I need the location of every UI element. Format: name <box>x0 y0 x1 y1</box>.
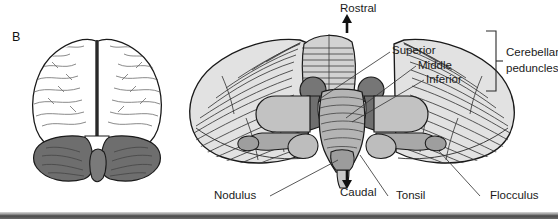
inset-cerebellum-left <box>34 136 94 181</box>
label-cerebellar-peduncles-line1: Cerebellar <box>506 46 558 59</box>
brain-inset-group <box>33 39 162 181</box>
label-superior-peduncle: Superior <box>392 44 435 57</box>
middle-peduncle-right <box>374 96 428 132</box>
leader-nodulus <box>270 160 338 196</box>
nodulus <box>331 150 354 170</box>
bottom-bar <box>0 212 558 219</box>
label-inferior-peduncle: Inferior <box>426 73 462 86</box>
panel-letter: B <box>12 30 20 44</box>
label-cerebellar-peduncles-line2: peduncles <box>506 62 558 75</box>
anatomical-illustration <box>0 0 558 219</box>
label-flocculus: Flocculus <box>490 189 539 202</box>
caudal-label: Caudal <box>340 186 376 199</box>
label-tonsil: Tonsil <box>396 189 425 202</box>
rostral-label: Rostral <box>340 2 376 15</box>
cerebrum-left-hemisphere <box>33 39 96 142</box>
label-middle-peduncle: Middle <box>418 59 452 72</box>
inset-cerebellar-vermis <box>90 149 106 182</box>
inset-cerebellum-right <box>101 136 161 181</box>
label-nodulus: Nodulus <box>214 189 256 202</box>
flocculus-left <box>238 136 259 151</box>
figure-panel-b: B Rostral Caudal Superior Middle Inferio… <box>0 0 558 219</box>
flocculus-right <box>425 136 446 151</box>
rostral-arrow-icon <box>342 14 352 33</box>
cerebellum-diagram-group <box>190 34 515 188</box>
cerebrum-right-hemisphere <box>98 39 161 142</box>
middle-peduncle-left <box>256 96 310 132</box>
